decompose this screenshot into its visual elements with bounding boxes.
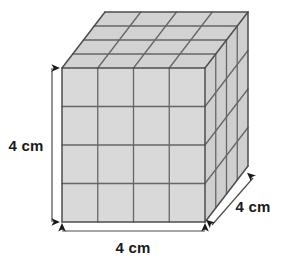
cube-illustration: 4 cm 4 cm 4 cm <box>0 0 282 261</box>
width-label: 4 cm <box>116 239 151 256</box>
cube-diagram-figure: 4 cm 4 cm 4 cm <box>0 0 282 261</box>
depth-label: 4 cm <box>236 198 271 215</box>
cube-solid <box>62 12 248 222</box>
height-label: 4 cm <box>9 137 44 154</box>
